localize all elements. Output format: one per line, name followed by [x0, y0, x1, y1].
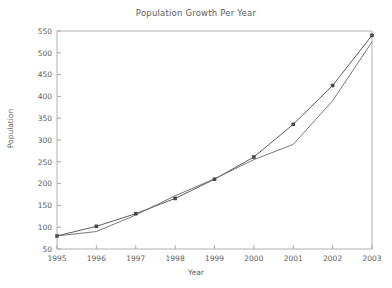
series-line-population-markers	[57, 35, 372, 236]
data-point-marker	[331, 84, 335, 88]
y-tick-label: 550	[38, 27, 53, 36]
y-tick-label: 500	[38, 49, 53, 58]
plot-area: 50100150200250300350400450500550 1995199…	[0, 0, 392, 288]
y-tick-label: 100	[38, 223, 53, 232]
y-tick-label: 50	[42, 245, 52, 254]
data-point-marker	[55, 234, 59, 238]
y-tick-label: 400	[38, 92, 53, 101]
x-tick-label: 2000	[244, 254, 263, 263]
x-axis-ticks: 199519961997199819992000200120022003	[47, 245, 381, 263]
y-tick-label: 350	[38, 114, 53, 123]
data-point-marker	[95, 225, 99, 229]
x-tick-label: 2001	[284, 254, 303, 263]
series-line-population-trend	[57, 42, 372, 236]
data-point-marker	[213, 177, 217, 181]
y-tick-label: 200	[38, 179, 53, 188]
x-tick-label: 1996	[87, 254, 106, 263]
data-point-marker	[173, 197, 177, 201]
x-tick-label: 1998	[166, 254, 185, 263]
data-point-marker	[370, 34, 374, 38]
data-point-marker	[134, 212, 138, 216]
x-tick-label: 1995	[47, 254, 66, 263]
y-tick-label: 300	[38, 136, 53, 145]
x-tick-label: 2002	[323, 254, 342, 263]
x-tick-label: 1999	[205, 254, 224, 263]
chart-container: Population Growth Per Year Population Ye…	[0, 0, 392, 288]
y-tick-label: 250	[38, 158, 53, 167]
y-tick-label: 450	[38, 70, 53, 79]
data-point-markers	[55, 34, 374, 238]
data-point-marker	[252, 155, 256, 159]
axis-frame	[57, 31, 372, 249]
y-tick-label: 150	[38, 201, 53, 210]
x-tick-label: 1997	[126, 254, 145, 263]
data-series-layer	[57, 35, 372, 236]
data-point-marker	[291, 123, 295, 127]
y-axis-ticks: 50100150200250300350400450500550	[38, 27, 61, 254]
x-tick-label: 2003	[362, 254, 381, 263]
